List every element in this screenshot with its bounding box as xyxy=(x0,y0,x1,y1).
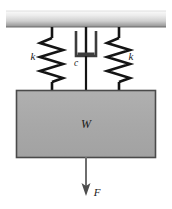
spring-left: k xyxy=(31,27,63,91)
spring-left-coil xyxy=(40,38,63,82)
mass-block-label: W xyxy=(81,117,92,131)
mechanical-system-figure: k c k W F xyxy=(0,0,172,209)
spring-right: k xyxy=(107,27,135,91)
spring-left-label: k xyxy=(31,50,37,62)
mass-block: W xyxy=(17,91,156,158)
damper-piston-plate xyxy=(78,53,95,56)
spring-right-label: k xyxy=(129,50,135,62)
fixed-support-ceiling xyxy=(6,11,166,27)
force-arrow: F xyxy=(82,157,101,198)
spring-right-coil xyxy=(107,38,130,82)
damper-label: c xyxy=(74,58,79,68)
force-arrow-label: F xyxy=(93,186,101,198)
damper-center: c xyxy=(74,27,96,91)
figure-canvas: k c k W F xyxy=(0,0,172,209)
